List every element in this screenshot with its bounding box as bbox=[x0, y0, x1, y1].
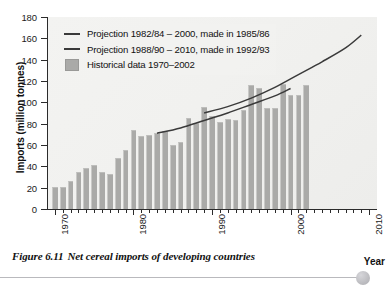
page-corner-dot bbox=[356, 271, 370, 285]
x-tick-mark-minor bbox=[126, 209, 127, 213]
legend-item: Historical data 1970–2002 bbox=[63, 57, 270, 73]
x-tick-mark-major bbox=[369, 209, 370, 215]
x-tick-mark-minor bbox=[220, 209, 221, 213]
x-tick-label: 1970 bbox=[59, 214, 70, 235]
x-axis-title: Year bbox=[364, 256, 385, 267]
legend-item: Projection 1988/90 – 2010, made in 1992/… bbox=[63, 42, 270, 58]
page-rule-divider bbox=[0, 277, 360, 278]
x-tick-mark-minor bbox=[251, 209, 252, 213]
x-tick-mark-major bbox=[133, 209, 134, 215]
x-tick-label: 2010 bbox=[373, 214, 384, 235]
x-tick-mark-minor bbox=[298, 209, 299, 213]
x-tick-mark-minor bbox=[338, 209, 339, 213]
x-tick-label: 1980 bbox=[137, 214, 148, 235]
x-tick-mark-minor bbox=[275, 209, 276, 213]
legend-key-line bbox=[63, 48, 81, 50]
x-tick-mark-minor bbox=[243, 209, 244, 213]
x-tick-mark-minor bbox=[86, 209, 87, 213]
x-tick-mark-minor bbox=[353, 209, 354, 213]
x-tick-mark-minor bbox=[94, 209, 95, 213]
y-axis-line bbox=[47, 17, 48, 209]
x-tick-mark-minor bbox=[283, 209, 284, 213]
x-tick-mark-minor bbox=[157, 209, 158, 213]
legend-line-icon bbox=[64, 48, 80, 50]
x-tick-mark-minor bbox=[330, 209, 331, 213]
y-tick-mark bbox=[41, 81, 47, 82]
legend: Projection 1982/84 – 2000, made in 1985/… bbox=[61, 24, 276, 75]
legend-key-swatch bbox=[63, 59, 81, 71]
x-tick-mark-minor bbox=[181, 209, 182, 213]
y-tick-mark bbox=[41, 60, 47, 61]
y-tick-label: 180 bbox=[13, 12, 37, 23]
x-tick-mark-minor bbox=[71, 209, 72, 213]
y-tick-mark bbox=[41, 145, 47, 146]
x-tick-mark-minor bbox=[314, 209, 315, 213]
plot-area: Projection 1982/84 – 2000, made in 1985/… bbox=[47, 17, 377, 209]
x-tick-mark-minor bbox=[306, 209, 307, 213]
x-tick-mark-minor bbox=[236, 209, 237, 213]
x-tick-mark-minor bbox=[346, 209, 347, 213]
x-tick-mark-minor bbox=[118, 209, 119, 213]
x-tick-mark-major bbox=[212, 209, 213, 215]
y-tick-mark bbox=[41, 124, 47, 125]
y-axis-title: Imports (million tonnes) bbox=[15, 38, 26, 198]
x-tick-mark-minor bbox=[196, 209, 197, 213]
x-tick-mark-minor bbox=[102, 209, 103, 213]
x-tick-mark-minor bbox=[188, 209, 189, 213]
x-tick-mark-minor bbox=[322, 209, 323, 213]
legend-item: Projection 1982/84 – 2000, made in 1985/… bbox=[63, 26, 270, 42]
x-tick-mark-minor bbox=[259, 209, 260, 213]
legend-label: Projection 1982/84 – 2000, made in 1985/… bbox=[87, 28, 270, 39]
x-tick-mark-minor bbox=[361, 209, 362, 213]
x-tick-mark-minor bbox=[141, 209, 142, 213]
y-tick-label: 0 bbox=[13, 204, 37, 215]
y-tick-mark bbox=[41, 17, 47, 18]
x-tick-mark-minor bbox=[173, 209, 174, 213]
x-tick-label: 1990 bbox=[216, 214, 227, 235]
x-tick-mark-major bbox=[55, 209, 56, 215]
x-tick-mark-minor bbox=[204, 209, 205, 213]
x-tick-mark-minor bbox=[267, 209, 268, 213]
x-tick-mark-major bbox=[291, 209, 292, 215]
x-tick-mark-minor bbox=[228, 209, 229, 213]
x-tick-mark-minor bbox=[110, 209, 111, 213]
projection-line-1982-2000 bbox=[157, 88, 291, 133]
y-tick-mark bbox=[41, 38, 47, 39]
x-tick-label: 2000 bbox=[295, 214, 306, 235]
legend-line-icon bbox=[64, 33, 80, 35]
x-tick-mark-minor bbox=[78, 209, 79, 213]
x-tick-mark-minor bbox=[149, 209, 150, 213]
legend-label: Projection 1988/90 – 2010, made in 1992/… bbox=[87, 44, 270, 55]
x-tick-mark-minor bbox=[165, 209, 166, 213]
y-tick-mark bbox=[41, 102, 47, 103]
figure-number: Figure 6.11 bbox=[12, 250, 63, 262]
legend-key-line bbox=[63, 33, 81, 35]
y-tick-mark bbox=[41, 166, 47, 167]
y-tick-mark bbox=[41, 188, 47, 189]
figure-container: Projection 1982/84 – 2000, made in 1985/… bbox=[0, 0, 389, 285]
legend-label: Historical data 1970–2002 bbox=[87, 59, 195, 70]
figure-caption: Figure 6.11Net cereal imports of develop… bbox=[12, 250, 255, 262]
figure-caption-text: Net cereal imports of developing countri… bbox=[67, 250, 254, 262]
legend-swatch-icon bbox=[65, 59, 79, 71]
x-tick-mark-minor bbox=[63, 209, 64, 213]
y-tick-mark bbox=[41, 209, 47, 210]
